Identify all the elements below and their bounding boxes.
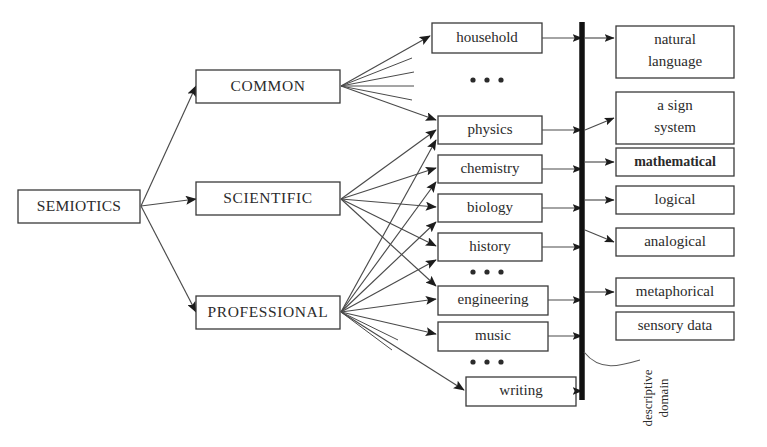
domain-label-engineering: engineering: [458, 291, 529, 307]
ellipsis-dot: [470, 359, 475, 364]
category-label-scientific: SCIENTIFIC: [223, 189, 313, 206]
target-label-natural-language-line1: natural: [654, 31, 696, 47]
target-node-analogical[interactable]: analogical: [616, 228, 734, 256]
domain-node-physics[interactable]: physics: [438, 116, 542, 144]
category-node-common[interactable]: COMMON: [196, 70, 340, 103]
edge-common-stub-2: [341, 72, 414, 86]
edge-common-household: [341, 36, 430, 86]
domain-node-writing[interactable]: writing: [466, 377, 576, 406]
edges-scientific-to-domains: [341, 130, 436, 286]
ellipsis-dot: [470, 77, 475, 82]
descriptive-domain-label-line1: descriptive: [640, 369, 655, 426]
ellipsis-dot: [484, 269, 489, 274]
diagram-canvas: household physics chemistry biology hist…: [0, 0, 767, 447]
edge-professional-engineering: [341, 299, 436, 312]
target-boxes: natural language a sign system mathemati…: [616, 26, 734, 340]
target-label-natural-language-line2: language: [648, 53, 702, 69]
edge-common-stub-4: [341, 86, 412, 100]
descriptive-domain-annotation: descriptive domain: [640, 369, 671, 426]
domain-label-physics: physics: [468, 121, 513, 137]
target-label-a-sign-system-line2: system: [654, 119, 696, 135]
edge-scientific-physics: [341, 130, 436, 199]
domain-label-household: household: [456, 29, 518, 45]
target-label-metaphorical: metaphorical: [636, 283, 714, 299]
semiotics-diagram: household physics chemistry biology hist…: [0, 0, 767, 447]
ellipsis-common: [470, 77, 503, 82]
domain-node-music[interactable]: music: [438, 322, 548, 351]
target-node-natural-language[interactable]: natural language: [616, 26, 734, 78]
domain-node-history[interactable]: history: [438, 233, 542, 261]
edge-spine-analogical: [585, 230, 614, 242]
edges-root-to-categories: [141, 86, 196, 312]
category-label-common: COMMON: [230, 77, 305, 94]
edge-semiotics-professional: [141, 206, 196, 312]
domain-label-music: music: [475, 327, 511, 343]
target-node-logical[interactable]: logical: [616, 186, 734, 214]
edge-spine-a-sign-system: [585, 118, 614, 130]
ellipsis-dot: [470, 269, 475, 274]
domain-label-history: history: [469, 238, 511, 254]
target-label-sensory-data: sensory data: [638, 317, 713, 333]
domain-label-writing: writing: [499, 382, 543, 398]
target-node-sensory-data[interactable]: sensory data: [616, 312, 734, 340]
edge-scientific-engineering-cross: [341, 199, 436, 286]
root-label-semiotics: SEMIOTICS: [37, 197, 122, 214]
target-label-logical: logical: [655, 191, 696, 207]
descriptive-domain-label-line2: domain: [656, 378, 671, 417]
edges-common-to-domains: [341, 36, 436, 120]
edge-semiotics-common: [141, 86, 196, 206]
domain-label-chemistry: chemistry: [460, 160, 520, 176]
target-label-analogical: analogical: [644, 233, 706, 249]
target-node-a-sign-system[interactable]: a sign system: [616, 92, 734, 144]
ellipsis-dot: [498, 359, 503, 364]
ellipsis-scientific: [470, 269, 503, 274]
domain-node-biology[interactable]: biology: [438, 194, 542, 222]
ellipsis-professional: [470, 359, 503, 364]
target-node-mathematical[interactable]: mathematical: [616, 148, 734, 176]
domain-node-engineering[interactable]: engineering: [438, 286, 548, 315]
target-label-mathematical: mathematical: [634, 154, 716, 169]
domain-label-biology: biology: [467, 199, 513, 215]
domain-boxes: household physics chemistry biology hist…: [432, 23, 576, 406]
edge-scientific-chemistry: [341, 168, 436, 199]
category-label-professional: PROFESSIONAL: [208, 303, 329, 320]
edge-professional-stub-1: [341, 312, 398, 340]
ellipsis-dot: [498, 77, 503, 82]
edges-spine-to-targets: [585, 38, 614, 292]
target-label-a-sign-system-line1: a sign: [657, 97, 693, 113]
root-node-semiotics[interactable]: SEMIOTICS: [18, 190, 140, 223]
edge-professional-chemistry-cross: [341, 182, 436, 312]
edge-professional-biology-cross: [341, 222, 436, 312]
target-node-metaphorical[interactable]: metaphorical: [616, 278, 734, 306]
ellipsis-dot: [498, 269, 503, 274]
descriptive-domain-leader: [584, 352, 640, 366]
category-node-scientific[interactable]: SCIENTIFIC: [196, 182, 340, 215]
ellipsis-dot: [484, 77, 489, 82]
category-node-professional[interactable]: PROFESSIONAL: [196, 296, 340, 329]
ellipsis-dot: [484, 359, 489, 364]
category-boxes: COMMON SCIENTIFIC PROFESSIONAL: [196, 70, 340, 329]
edge-common-physics: [341, 86, 436, 120]
domain-node-household[interactable]: household: [432, 23, 542, 53]
domain-node-chemistry[interactable]: chemistry: [438, 155, 542, 183]
edge-semiotics-scientific: [141, 199, 196, 206]
edge-common-stub-1: [341, 58, 412, 86]
